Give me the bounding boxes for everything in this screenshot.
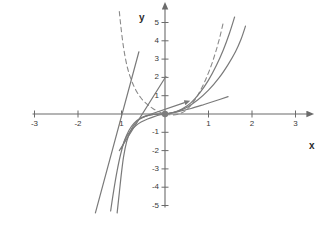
plot-figure: -3-21123-5-4-3-2-112345 x y	[0, 0, 332, 228]
y-tick-label: 4	[155, 37, 159, 45]
y-tick-label: 2	[155, 73, 159, 81]
x-tick-label: 1	[119, 120, 123, 128]
x-tick-label: 3	[293, 120, 297, 128]
y-tick-label: -2	[152, 147, 159, 155]
y-tick-label: 3	[155, 55, 159, 63]
y-tick-label: -5	[152, 202, 159, 210]
origin-point	[162, 111, 168, 117]
curve-solid-steep-curve-b	[111, 26, 246, 211]
point-group	[162, 111, 168, 117]
y-tick-label: -1	[152, 128, 159, 136]
x-tick-label: -2	[74, 120, 81, 128]
curve-straight-line-steep	[95, 52, 138, 213]
y-tick-label: -3	[152, 165, 159, 173]
y-axis-label: y	[139, 14, 145, 22]
y-tick-label: 5	[155, 19, 159, 27]
x-tick-label: 2	[250, 120, 254, 128]
y-tick-label: -4	[152, 183, 159, 191]
curve-dashed-steep-log-curve	[119, 12, 223, 115]
x-tick-label: -3	[31, 120, 38, 128]
plot-canvas	[0, 0, 332, 228]
y-tick-label: 1	[155, 92, 159, 100]
x-tick-label: 1	[206, 120, 210, 128]
x-axis-label: x	[309, 142, 315, 150]
curve-group	[95, 12, 245, 213]
